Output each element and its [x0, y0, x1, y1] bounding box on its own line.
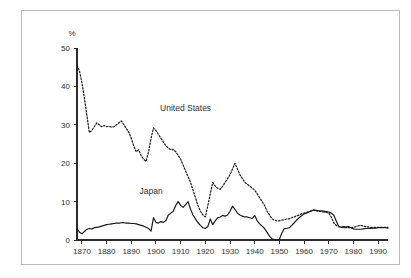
x-tick-label: 1910 [172, 247, 190, 256]
y-tick-label: 20 [61, 159, 70, 168]
series-line-united-states [77, 65, 388, 227]
line-chart: 0102030405018701880189019001910192019301… [0, 0, 411, 278]
x-tick-label: 1930 [221, 247, 239, 256]
x-tick-label: 1970 [320, 247, 338, 256]
chart-series [77, 65, 388, 239]
chart-annotations: United StatesJapan [139, 103, 211, 196]
y-tick-label: 10 [61, 198, 70, 207]
series-label-japan: Japan [139, 186, 162, 196]
x-tick-label: 1990 [369, 247, 387, 256]
x-tick-label: 1940 [246, 247, 264, 256]
chart-axes: 0102030405018701880189019001910192019301… [61, 29, 388, 256]
y-tick-label: 40 [61, 82, 70, 91]
x-tick-label: 1960 [295, 247, 313, 256]
x-tick-label: 1980 [345, 247, 363, 256]
y-tick-label: 50 [61, 44, 70, 53]
chart-figure: 0102030405018701880189019001910192019301… [0, 0, 411, 278]
x-tick-label: 1920 [196, 247, 214, 256]
series-label-united-states: United States [160, 103, 211, 113]
y-axis-unit-label: % [68, 29, 75, 38]
x-tick-label: 1890 [122, 247, 140, 256]
y-tick-label: 0 [66, 236, 71, 245]
y-tick-label: 30 [61, 121, 70, 130]
x-tick-label: 1880 [98, 247, 116, 256]
x-tick-label: 1900 [147, 247, 165, 256]
series-line-japan [77, 202, 388, 240]
x-tick-label: 1950 [270, 247, 288, 256]
x-tick-label: 1870 [73, 247, 91, 256]
